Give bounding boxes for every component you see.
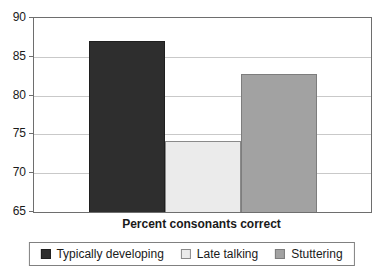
y-axis-tick-label: 85 (0, 50, 26, 62)
y-axis-tick-label: 65 (0, 205, 26, 217)
legend-item-typically-developing: Typically developing (40, 248, 163, 260)
bar-typically-developing (89, 41, 165, 212)
legend: Typically developingLate talkingStutteri… (28, 242, 354, 266)
y-axis-tick-mark (29, 17, 33, 18)
y-axis-tick-mark (29, 56, 33, 57)
legend-item-late-talking: Late talking (181, 248, 258, 260)
legend-label: Late talking (197, 248, 258, 260)
legend-swatch (275, 249, 285, 259)
x-axis-title: Percent consonants correct (33, 217, 370, 231)
y-axis-tick-mark (29, 172, 33, 173)
legend-swatch (181, 249, 191, 259)
chart-container: Percent consonants correct Typically dev… (0, 0, 383, 280)
legend-label: Stuttering (291, 248, 342, 260)
y-axis-tick-mark (29, 95, 33, 96)
plot-area (33, 17, 372, 213)
y-axis-tick-label: 70 (0, 166, 26, 178)
y-axis-tick-mark (29, 133, 33, 134)
legend-swatch (40, 249, 50, 259)
y-axis-tick-label: 75 (0, 127, 26, 139)
bar-stuttering (241, 74, 317, 212)
legend-item-stuttering: Stuttering (275, 248, 342, 260)
bar-late-talking (165, 141, 241, 212)
y-axis-tick-label: 90 (0, 11, 26, 23)
gridline (34, 134, 371, 135)
gridline (34, 96, 371, 97)
legend-label: Typically developing (56, 248, 163, 260)
gridline (34, 57, 371, 58)
y-axis-tick-label: 80 (0, 89, 26, 101)
y-axis-tick-mark (29, 211, 33, 212)
